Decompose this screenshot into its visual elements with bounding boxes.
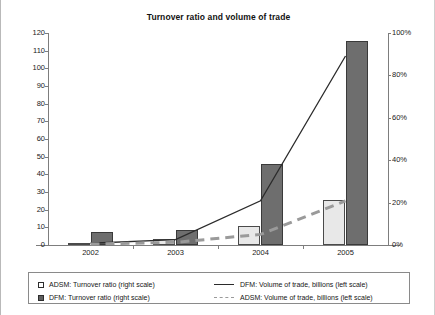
x-axis-tick-label: 2003 — [167, 249, 184, 257]
line-adsm-volume — [91, 201, 346, 244]
x-axis-separator — [133, 245, 134, 249]
legend-item-dfm-volume: DFM: Volume of trade, billions (left sca… — [214, 279, 368, 290]
left-tick-label: 110 — [33, 47, 45, 55]
legend-label: ADSM: Turnover ratio (right scale) — [49, 281, 155, 288]
left-tick-label: 100 — [32, 65, 45, 73]
left-tick-label: 30 — [37, 188, 45, 196]
x-axis-separator — [303, 245, 304, 249]
chart-legend: ADSM: Turnover ratio (right scale) DFM: … — [28, 272, 410, 304]
legend-label: ADSM: Volume of trade, billions (left sc… — [240, 294, 373, 301]
x-axis-tick-label: 2004 — [252, 249, 269, 257]
right-tick-label: 20% — [392, 199, 407, 207]
left-tick-label: 50 — [37, 153, 45, 161]
right-tick-label: 80% — [392, 72, 407, 80]
line-series-overlay — [48, 33, 388, 245]
legend-item-adsm-volume: ADSM: Volume of trade, billions (left sc… — [214, 292, 373, 303]
right-tick-label: 100% — [392, 29, 411, 37]
legend-swatch-dashed-line-icon — [214, 297, 234, 298]
right-tick-mark — [388, 203, 391, 204]
chart-frame: Turnover ratio and volume of trade 01020… — [0, 0, 435, 315]
right-tick-mark — [388, 75, 391, 76]
left-tick-mark — [45, 245, 48, 246]
plot-area: 0102030405060708090100110120 0%20%40%60%… — [48, 33, 388, 245]
legend-label: DFM: Turnover ratio (right scale) — [49, 294, 150, 301]
right-tick-label: 40% — [392, 156, 407, 164]
right-tick-label: 0% — [392, 241, 403, 249]
right-tick-mark — [388, 118, 391, 119]
right-tick-label: 60% — [392, 114, 407, 122]
left-tick-label: 120 — [32, 29, 45, 37]
left-tick-label: 90 — [37, 82, 45, 90]
chart-title: Turnover ratio and volume of trade — [1, 12, 435, 22]
left-tick-label: 80 — [37, 100, 45, 108]
left-tick-label: 20 — [37, 206, 45, 214]
left-tick-label: 10 — [37, 224, 45, 232]
right-tick-mark — [388, 160, 391, 161]
left-tick-label: 70 — [37, 118, 45, 126]
right-tick-mark — [388, 245, 391, 246]
legend-swatch-solid-line-icon — [214, 284, 234, 285]
legend-item-adsm-turnover: ADSM: Turnover ratio (right scale) — [38, 279, 155, 290]
x-axis-tick-label: 2005 — [337, 249, 354, 257]
legend-swatch-filled-square-icon — [38, 295, 44, 301]
x-axis-tick-label: 2002 — [82, 249, 99, 257]
legend-swatch-open-square-icon — [38, 282, 44, 288]
line-dfm-volume — [91, 56, 346, 243]
right-axis-line — [388, 33, 389, 246]
legend-label: DFM: Volume of trade, billions (left sca… — [240, 281, 368, 288]
x-axis-separator — [218, 245, 219, 249]
left-tick-label: 60 — [37, 135, 45, 143]
legend-item-dfm-turnover: DFM: Turnover ratio (right scale) — [38, 292, 150, 303]
left-tick-label: 40 — [37, 171, 45, 179]
right-tick-mark — [388, 33, 391, 34]
